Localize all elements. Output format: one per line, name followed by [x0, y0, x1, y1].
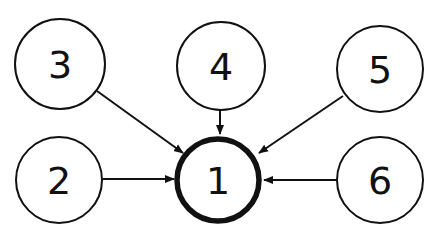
node-1-central: 1: [177, 139, 259, 221]
node-1-label: 1: [206, 159, 230, 203]
node-2: 2: [16, 137, 102, 223]
node-4: 4: [177, 22, 265, 110]
node-2-label: 2: [47, 159, 71, 203]
diagram-canvas: 3 2 4 5 6 1: [0, 0, 436, 236]
node-5: 5: [337, 26, 423, 112]
node-4-label: 4: [209, 45, 233, 89]
node-3: 3: [15, 19, 105, 109]
node-5-label: 5: [368, 48, 392, 92]
node-6: 6: [337, 137, 423, 223]
edge-3-to-1: [97, 91, 183, 153]
edge-5-to-1: [259, 96, 343, 153]
node-6-label: 6: [368, 159, 392, 203]
node-3-label: 3: [48, 43, 72, 87]
